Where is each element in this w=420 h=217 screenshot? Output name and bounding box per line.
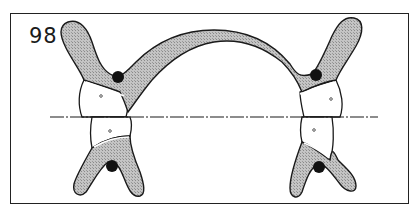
dental-diagram-figure: 98 (0, 0, 420, 217)
left-lower-canal-dot (106, 160, 118, 172)
right-upper-canal-dot (310, 69, 322, 81)
diagram-drawing (0, 0, 420, 217)
right-lower-canal-dot (313, 161, 325, 173)
left-upper-canal-dot (112, 71, 124, 83)
